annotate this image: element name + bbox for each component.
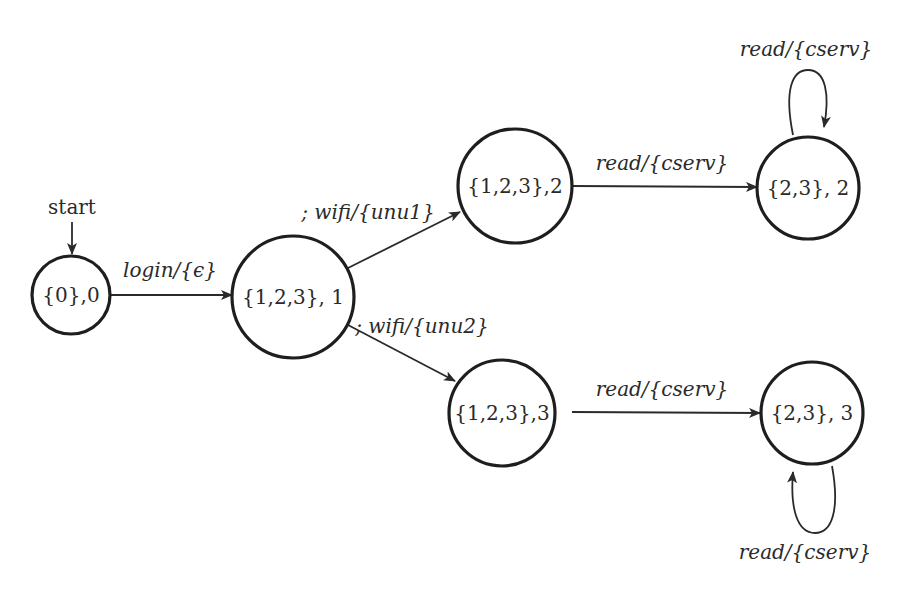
state-node-s2: {1,2,3},2 bbox=[458, 129, 572, 243]
start-label: start bbox=[48, 195, 96, 219]
state-label: {2,3}, 3 bbox=[771, 401, 854, 425]
loop-label-top: read/{cserv} bbox=[740, 37, 872, 61]
loop-s5: read/{cserv} bbox=[739, 466, 871, 564]
state-node-s3: {1,2,3},3 bbox=[449, 360, 555, 466]
state-node-s1: {1,2,3}, 1 bbox=[232, 236, 354, 358]
start-marker: start bbox=[48, 195, 96, 254]
loop-label-bottom: read/{cserv} bbox=[739, 540, 871, 564]
loop-arrow bbox=[789, 70, 826, 135]
edge-s0-s1: login/{ϵ} bbox=[109, 258, 232, 295]
state-diagram: start login/{ϵ} ; wifi/{unu1} ; wifi/{un… bbox=[0, 0, 900, 592]
edge-label-login: login/{ϵ} bbox=[123, 258, 217, 282]
edge-label-read-bottom: read/{cserv} bbox=[596, 377, 728, 401]
state-label: {2,3}, 2 bbox=[767, 176, 850, 200]
edge-label-wifi-unu2: ; wifi/{unu2} bbox=[354, 314, 489, 338]
state-label: {1,2,3},2 bbox=[467, 174, 562, 198]
state-label: {0},0 bbox=[42, 283, 99, 307]
state-label: {1,2,3}, 1 bbox=[242, 285, 344, 309]
edge-label-read-top: read/{cserv} bbox=[596, 151, 728, 175]
edge-arrow bbox=[572, 186, 757, 187]
edge-arrow bbox=[572, 412, 760, 413]
loop-arrow bbox=[792, 466, 835, 533]
edge-s3-s5: read/{cserv} bbox=[572, 377, 760, 413]
state-node-s4: {2,3}, 2 bbox=[757, 137, 859, 239]
loop-s4: read/{cserv} bbox=[740, 37, 872, 135]
state-node-s0: {0},0 bbox=[32, 256, 110, 334]
state-node-s5: {2,3}, 3 bbox=[761, 362, 863, 464]
edge-label-wifi-unu1: ; wifi/{unu1} bbox=[300, 200, 435, 224]
edge-s2-s4: read/{cserv} bbox=[572, 151, 757, 187]
state-label: {1,2,3},3 bbox=[454, 401, 549, 425]
